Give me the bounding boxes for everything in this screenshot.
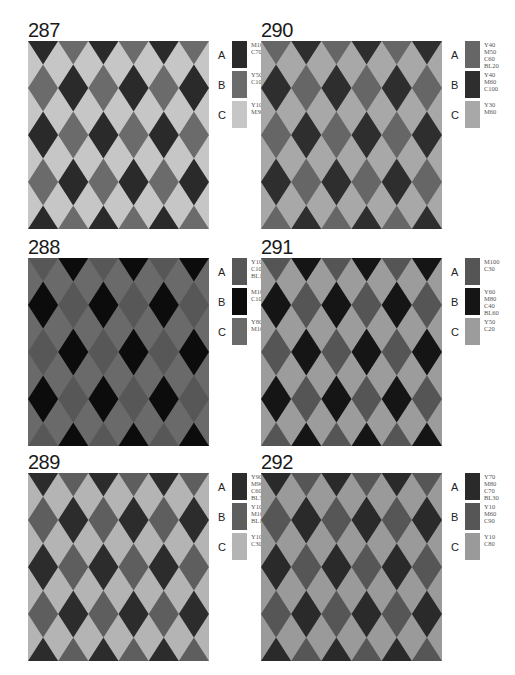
color-swatch	[465, 503, 480, 530]
panel-number: 289	[28, 452, 60, 472]
harlequin-pattern	[261, 473, 442, 661]
harlequin-pattern	[28, 41, 209, 229]
color-swatch	[232, 288, 247, 315]
color-swatch	[232, 101, 247, 128]
legend-letter: C	[218, 326, 226, 338]
pattern-panel: 290AY40 M50 C60 BL20BY40 M60 C100CY30 M6…	[261, 20, 511, 240]
legend-row: BY40 M60 C100	[451, 71, 515, 99]
legend-row: BY60 M80 C40 BL60	[451, 288, 515, 316]
swatch-formula: Y70 M80 C70 BL30	[484, 473, 499, 501]
harlequin-pattern	[28, 473, 209, 661]
swatch-formula: Y10 M60 C90	[484, 503, 496, 524]
legend-letter: B	[451, 296, 458, 308]
color-swatch	[465, 473, 480, 500]
legend-letter: A	[451, 266, 458, 278]
swatch-formula: Y60 M80 C40 BL60	[484, 288, 499, 316]
color-swatch	[232, 318, 247, 345]
panel-number: 292	[261, 452, 293, 472]
legend-letter: A	[451, 481, 458, 493]
legend-letter: B	[218, 511, 225, 523]
legend-row: BY10 M60 C90	[451, 503, 515, 531]
legend-letter: B	[451, 79, 458, 91]
color-swatch	[232, 258, 247, 285]
legend-letter: C	[218, 541, 226, 553]
legend-row: AM100 C30	[451, 258, 515, 286]
legend-row: AY70 M80 C70 BL30	[451, 473, 515, 501]
color-swatch	[232, 41, 247, 68]
pattern-panel: 289AY90 M90 C60 BL30BY100 M100 BL10CY100…	[28, 452, 278, 672]
swatch-formula: Y10 C80	[484, 533, 495, 547]
legend-row: CY50 C20	[451, 318, 515, 346]
pattern-panel: 292AY70 M80 C70 BL30BY10 M60 C90CY10 C80	[261, 452, 511, 672]
color-swatch	[465, 101, 480, 128]
color-swatch	[465, 41, 480, 68]
legend-letter: B	[218, 79, 225, 91]
color-swatch	[465, 288, 480, 315]
color-swatch	[232, 503, 247, 530]
legend-row: CY10 C80	[451, 533, 515, 561]
harlequin-pattern	[28, 258, 209, 446]
legend-letter: A	[218, 481, 225, 493]
color-swatch	[465, 318, 480, 345]
legend-letter: A	[451, 49, 458, 61]
swatch-formula: Y40 M50 C60 BL20	[484, 41, 499, 69]
harlequin-pattern	[261, 258, 442, 446]
legend-row: CY30 M60	[451, 101, 515, 129]
legend-letter: C	[451, 109, 459, 121]
panel-number: 288	[28, 237, 60, 257]
color-swatch	[232, 533, 247, 560]
legend-row: AY40 M50 C60 BL20	[451, 41, 515, 69]
panel-number: 291	[261, 237, 293, 257]
legend-letter: A	[218, 266, 225, 278]
color-swatch	[465, 258, 480, 285]
swatch-formula: Y50 C20	[484, 318, 495, 332]
legend-letter: A	[218, 49, 225, 61]
panel-number: 290	[261, 20, 293, 40]
legend-letter: B	[451, 511, 458, 523]
legend-letter: C	[451, 541, 459, 553]
pattern-panel: 287AM100 C70BY50 C100CY100 M30	[28, 20, 278, 240]
color-swatch	[465, 533, 480, 560]
legend-letter: C	[218, 109, 226, 121]
color-swatch	[465, 71, 480, 98]
harlequin-pattern	[261, 41, 442, 229]
panel-number: 287	[28, 20, 60, 40]
color-swatch	[232, 71, 247, 98]
swatch-formula: Y30 M60	[484, 101, 496, 115]
legend-letter: C	[451, 326, 459, 338]
swatch-formula: M100 C30	[484, 258, 500, 272]
swatch-formula: Y40 M60 C100	[484, 71, 498, 92]
color-swatch	[232, 473, 247, 500]
pattern-panel: 291AM100 C30BY60 M80 C40 BL60CY50 C20	[261, 237, 511, 457]
pattern-panel: 288AY100 C100 BL10BM100 C100CY80 M100	[28, 237, 278, 457]
legend-letter: B	[218, 296, 225, 308]
